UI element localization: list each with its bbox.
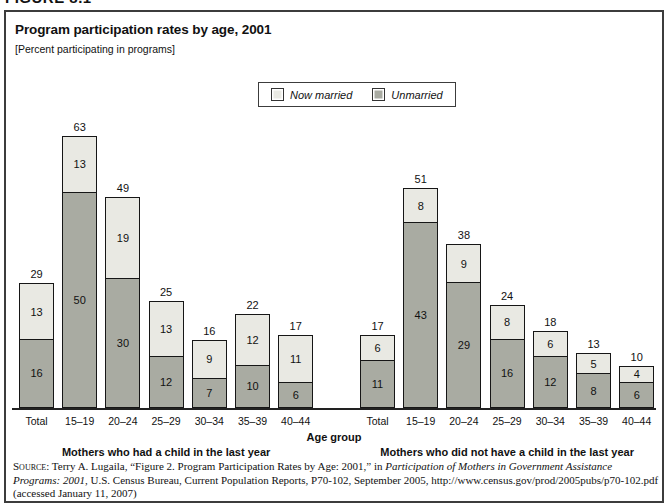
x-axis-tick-label: 40–44	[613, 415, 660, 427]
segment-now-married: 19	[105, 197, 140, 279]
segment-now-married: 9	[192, 340, 227, 379]
x-axis-tick-label: 15–19	[397, 415, 444, 427]
bar-total-label: 24	[484, 290, 531, 302]
bar-total-label: 38	[440, 229, 487, 241]
segment-unmarried: 12	[149, 356, 184, 408]
bar-total-label: 29	[13, 268, 60, 280]
x-axis-title: Age group	[6, 431, 662, 443]
bar-total-label: 18	[527, 316, 574, 328]
stacked-bar: 251312	[149, 301, 184, 408]
bar-total-label: 17	[354, 320, 401, 332]
segment-now-married: 8	[403, 188, 438, 223]
segment-unmarried: 8	[576, 373, 611, 408]
x-axis-tick-label: 15–19	[56, 415, 103, 427]
source-text-1: Terry A. Lugaila, “Figure 2. Program Par…	[49, 460, 385, 472]
segment-unmarried: 43	[403, 222, 438, 408]
stacked-bar: 221210	[235, 314, 270, 408]
segment-unmarried: 16	[490, 339, 525, 408]
segment-now-married: 8	[490, 305, 525, 340]
source-note: Source: Terry A. Lugaila, “Figure 2. Pro…	[13, 460, 659, 501]
segment-now-married: 13	[19, 283, 54, 339]
stacked-bar: 631350	[62, 136, 97, 408]
segment-now-married: 11	[278, 335, 313, 383]
chart-box: Program participation rates by age, 2001…	[4, 10, 664, 503]
page: FIGURE 8.1 Program participation rates b…	[0, 0, 668, 503]
source-label: Source:	[13, 460, 49, 472]
stacked-bar: 491930	[105, 197, 140, 408]
segment-now-married: 13	[62, 136, 97, 192]
bar-total-label: 25	[143, 286, 190, 298]
group-caption-had-child: Mothers who had a child in the last year	[7, 446, 325, 458]
x-axis-tick-label: Total	[13, 415, 60, 427]
segment-unmarried: 11	[360, 360, 395, 408]
x-axis-tick-label: 35–39	[229, 415, 276, 427]
segment-now-married: 13	[149, 301, 184, 357]
figure-number-label: FIGURE 8.1	[5, 0, 92, 7]
stacked-bar: 1046	[619, 366, 654, 408]
stacked-bar: 51843	[403, 188, 438, 408]
x-axis-tick-label: 20–24	[440, 415, 487, 427]
x-axis-line	[12, 408, 656, 410]
segment-unmarried: 30	[105, 278, 140, 408]
stacked-bar: 1358	[576, 353, 611, 408]
segment-unmarried: 7	[192, 378, 227, 408]
x-axis-tick-label: 25–29	[484, 415, 531, 427]
bar-total-label: 22	[229, 299, 276, 311]
x-axis-tick-label: 25–29	[143, 415, 190, 427]
segment-now-married: 9	[446, 244, 481, 283]
segment-now-married: 6	[533, 331, 568, 357]
bar-total-label: 16	[186, 325, 233, 337]
segment-unmarried: 50	[62, 192, 97, 409]
stacked-bar: 1697	[192, 340, 227, 408]
bar-total-label: 51	[397, 173, 444, 185]
plot-area: 2913166313504919302513121697221210171161…	[6, 12, 662, 410]
bar-total-label: 13	[570, 338, 617, 350]
segment-unmarried: 10	[235, 365, 270, 408]
group-caption-no-child: Mothers who did not have a child in the …	[348, 446, 666, 458]
segment-now-married: 6	[360, 335, 395, 361]
stacked-bar: 18612	[533, 331, 568, 408]
x-axis-tick-label: Total	[354, 415, 401, 427]
bar-total-label: 49	[99, 182, 146, 194]
segment-unmarried: 12	[533, 356, 568, 408]
bar-total-label: 10	[613, 351, 660, 363]
x-axis-tick-label: 20–24	[99, 415, 146, 427]
segment-now-married: 12	[235, 314, 270, 366]
segment-unmarried: 29	[446, 282, 481, 408]
bar-total-label: 17	[272, 320, 319, 332]
stacked-bar: 24816	[490, 305, 525, 408]
stacked-bar: 38929	[446, 244, 481, 408]
segment-now-married: 5	[576, 353, 611, 375]
segment-now-married: 4	[619, 366, 654, 383]
x-axis-tick-label: 30–34	[527, 415, 574, 427]
source-text-2: , U.S. Census Bureau, Current Population…	[13, 474, 658, 500]
stacked-bar: 17116	[278, 335, 313, 408]
bar-total-label: 63	[56, 121, 103, 133]
stacked-bar: 17611	[360, 335, 395, 408]
stacked-bar: 291316	[19, 283, 54, 408]
segment-unmarried: 6	[619, 382, 654, 408]
segment-unmarried: 6	[278, 382, 313, 408]
x-axis-tick-label: 40–44	[272, 415, 319, 427]
segment-unmarried: 16	[19, 339, 54, 408]
x-axis-tick-label: 30–34	[186, 415, 233, 427]
x-axis-tick-label: 35–39	[570, 415, 617, 427]
